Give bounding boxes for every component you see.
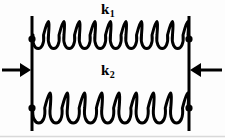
left-force-arrow: [2, 63, 31, 77]
spring-k2: [33, 93, 189, 123]
right-force-arrow: [190, 63, 222, 77]
top-right-node: [185, 35, 192, 42]
bottom-left-node: [28, 104, 35, 111]
spring-k1-label-subscript: 1: [109, 8, 115, 19]
spring-k1-label: k1: [101, 1, 115, 19]
spring-k1: [33, 22, 189, 49]
bottom-right-node: [185, 104, 192, 111]
spring-k2-label-subscript: 2: [109, 69, 115, 80]
spring-k2-label: k2: [101, 62, 115, 80]
spring-system-figure: k1 k2: [0, 0, 225, 138]
top-left-node: [28, 35, 35, 42]
